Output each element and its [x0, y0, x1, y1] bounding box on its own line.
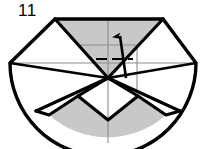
origami-diagram	[0, 0, 205, 149]
crease-line-center-to-left	[10, 63, 108, 78]
origami-figure: 11	[0, 0, 205, 149]
crease-line-center-to-inner-left	[78, 78, 108, 96]
top-shaded-triangle	[55, 19, 163, 78]
crease-line-center-to-inner-right	[108, 78, 138, 96]
